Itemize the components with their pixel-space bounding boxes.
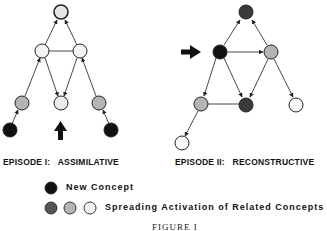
- node-top: [54, 5, 68, 19]
- figure-caption: FIGURE I: [152, 222, 198, 231]
- node-right: [264, 45, 278, 59]
- node-low-right: [289, 98, 303, 112]
- node-new: [213, 45, 227, 59]
- episode-1-nodes: [3, 5, 118, 137]
- node-top: [239, 5, 253, 19]
- episode-2-nodes: [175, 5, 303, 150]
- input-arrow-icon: [54, 121, 67, 140]
- node-low-left: [15, 96, 29, 110]
- episode-2-label: EPISODE II: RECONSTRUCTIVE: [175, 157, 314, 167]
- node-low-right: [92, 96, 106, 110]
- node-low-center: [239, 98, 253, 112]
- episode-2-name: RECONSTRUCTIVE: [233, 157, 315, 167]
- node-low-left: [194, 97, 208, 111]
- legend-gray-icon: [64, 202, 76, 214]
- legend-new-concept-label: New Concept: [66, 182, 134, 192]
- episode-2-prefix: EPISODE II:: [175, 157, 225, 167]
- node-mid-left: [35, 44, 49, 58]
- episode-1-label: EPISODE I: ASSIMILATIVE: [3, 157, 119, 167]
- input-arrow-icon: [181, 45, 201, 59]
- node-mid-right: [73, 44, 87, 58]
- legend-new-concept-icon: [45, 182, 57, 194]
- legend-light-icon: [84, 202, 96, 214]
- concept-network-diagram: [0, 0, 327, 231]
- episode-2-edges: [185, 20, 293, 136]
- episode-1-prefix: EPISODE I:: [3, 157, 50, 167]
- node-new-left: [3, 123, 17, 137]
- node-low-center: [54, 96, 68, 110]
- legend-spreading-label: Spreading Activation of Related Concepts: [105, 202, 324, 212]
- episode-1-name: ASSIMILATIVE: [58, 157, 119, 167]
- node-new-right: [104, 123, 118, 137]
- node-bottom: [175, 136, 189, 150]
- legend-dark-icon: [45, 202, 57, 214]
